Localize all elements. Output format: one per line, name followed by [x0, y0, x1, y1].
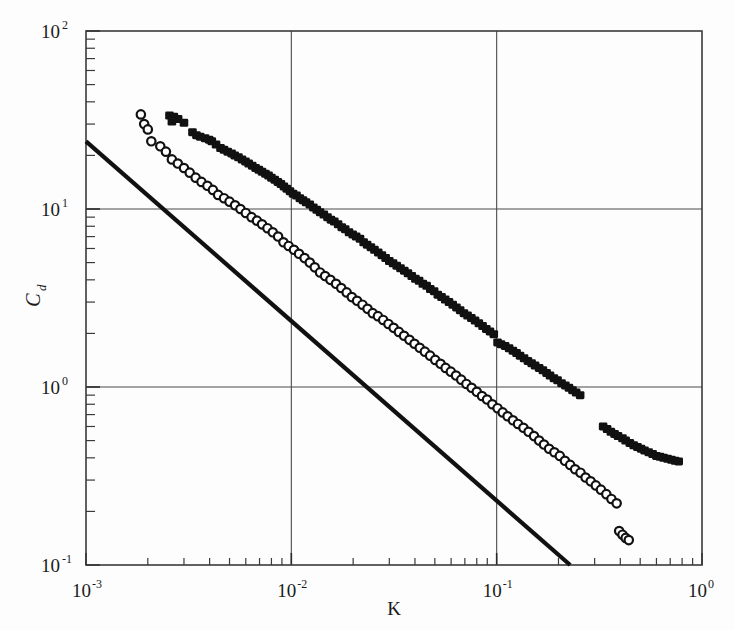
x-tick-label-base: 10: [72, 580, 91, 601]
data-point-open-circle: [625, 536, 633, 544]
y-tick-label-exponent: 0: [62, 374, 68, 388]
y-tick-label-exponent: 1: [62, 196, 68, 210]
y-tick-label-base: 10: [41, 21, 60, 42]
figure-container: 10-310-210-1100 10210110010-1 K C d: [0, 0, 734, 630]
x-axis-title: K: [387, 598, 401, 619]
data-point-filled-square: [576, 391, 585, 399]
data-point-filled-square: [180, 119, 189, 127]
data-point-filled-square: [168, 118, 177, 126]
x-tick-label-exponent: -3: [92, 577, 102, 591]
data-point-open-circle: [162, 147, 170, 155]
x-tick-label-exponent: 0: [708, 577, 714, 591]
y-tick-label-base: 10: [41, 555, 60, 576]
y-tick-label-base: 10: [41, 377, 60, 398]
data-point-open-circle: [137, 110, 145, 118]
y-tick-label-exponent: 2: [62, 18, 68, 32]
scatter-plot: 10-310-210-1100 10210110010-1 K C d: [0, 0, 734, 630]
x-tick-label-base: 10: [483, 580, 502, 601]
data-point-open-circle: [144, 125, 152, 133]
x-tick-label-exponent: -2: [297, 577, 307, 591]
data-point-open-circle: [612, 499, 620, 507]
data-point-open-circle: [147, 137, 155, 145]
data-point-filled-square: [489, 330, 498, 338]
x-tick-label-base: 10: [688, 580, 707, 601]
x-tick-label-base: 10: [277, 580, 296, 601]
y-tick-label-exponent: -1: [62, 552, 72, 566]
y-tick-label-base: 10: [41, 199, 60, 220]
x-tick-label-exponent: -1: [503, 577, 513, 591]
data-point-filled-square: [674, 457, 683, 465]
y-axis-title-base: C: [22, 293, 44, 307]
y-axis-title-subscript: d: [34, 284, 49, 291]
